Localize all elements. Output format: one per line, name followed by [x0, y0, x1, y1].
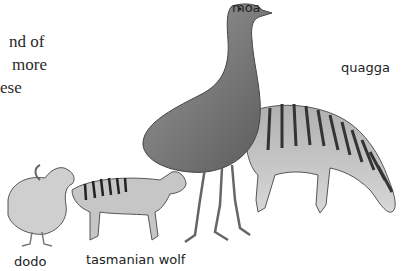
label-quagga: quagga: [341, 60, 390, 75]
label-moa: moa: [232, 0, 261, 15]
label-tasmanian-wolf: tasmanian wolf: [86, 252, 185, 267]
extinct-animals-illustration: [0, 0, 404, 271]
dodo-illustration: [8, 165, 74, 246]
tasmanian-wolf-illustration: [72, 172, 186, 240]
label-dodo: dodo: [14, 254, 46, 269]
quagga-illustration: [245, 104, 395, 213]
